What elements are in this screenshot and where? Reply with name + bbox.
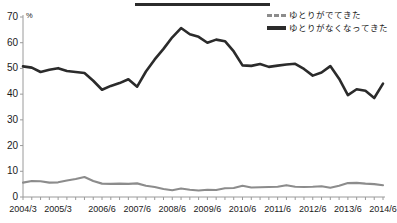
series-line	[23, 177, 383, 191]
series-line	[23, 28, 383, 98]
series-lines	[23, 28, 383, 191]
axis-lines	[23, 15, 385, 197]
axis-tick-marks	[20, 17, 383, 200]
